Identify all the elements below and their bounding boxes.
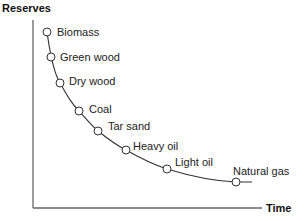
point-labels: Biomass Green wood Dry wood Coal Tar san… — [57, 26, 290, 177]
label-biomass: Biomass — [57, 26, 100, 38]
label-green-wood: Green wood — [60, 51, 120, 63]
marker-green-wood — [47, 53, 55, 61]
marker-biomass — [43, 28, 51, 36]
x-axis-label: Time — [266, 202, 291, 214]
marker-heavy-oil — [122, 146, 130, 154]
marker-natural-gas — [232, 178, 240, 186]
label-natural-gas: Natural gas — [233, 165, 290, 177]
marker-coal — [75, 107, 83, 115]
y-axis-label: Reserves — [2, 2, 51, 14]
label-heavy-oil: Heavy oil — [133, 140, 178, 152]
marker-tar-sand — [94, 127, 102, 135]
label-tar-sand: Tar sand — [108, 120, 150, 132]
label-coal: Coal — [89, 103, 112, 115]
label-light-oil: Light oil — [175, 156, 213, 168]
marker-light-oil — [163, 165, 171, 173]
label-dry-wood: Dry wood — [69, 75, 115, 87]
reserves-vs-time-diagram: Reserves Time Biomass Green wood Dry woo… — [0, 0, 305, 221]
marker-dry-wood — [56, 79, 64, 87]
